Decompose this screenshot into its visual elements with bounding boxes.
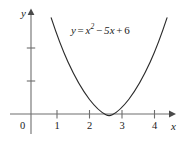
equation-equals: = bbox=[76, 24, 85, 36]
equation-op1: − bbox=[95, 24, 104, 36]
origin-label: 0 bbox=[20, 121, 25, 132]
equation-annotation: y=x2−5x+6 bbox=[71, 24, 130, 36]
x-tick-label-2: 2 bbox=[85, 121, 95, 132]
x-axis-label: x bbox=[171, 121, 176, 132]
equation-term2: 5x bbox=[104, 24, 115, 36]
parabola-figure: y=x2−5x+6 x y 0 1 2 3 4 bbox=[0, 0, 180, 145]
equation-term3: 6 bbox=[124, 24, 130, 36]
x-tick-label-1: 1 bbox=[52, 121, 62, 132]
equation-op2: + bbox=[115, 24, 124, 36]
x-tick-label-4: 4 bbox=[150, 121, 160, 132]
equation-term1-exponent: 2 bbox=[91, 22, 95, 31]
x-tick-label-3: 3 bbox=[117, 121, 127, 132]
x-axis-arrow-icon bbox=[169, 111, 176, 118]
y-axis-label: y bbox=[21, 8, 26, 19]
y-axis-arrow-icon bbox=[28, 9, 35, 16]
